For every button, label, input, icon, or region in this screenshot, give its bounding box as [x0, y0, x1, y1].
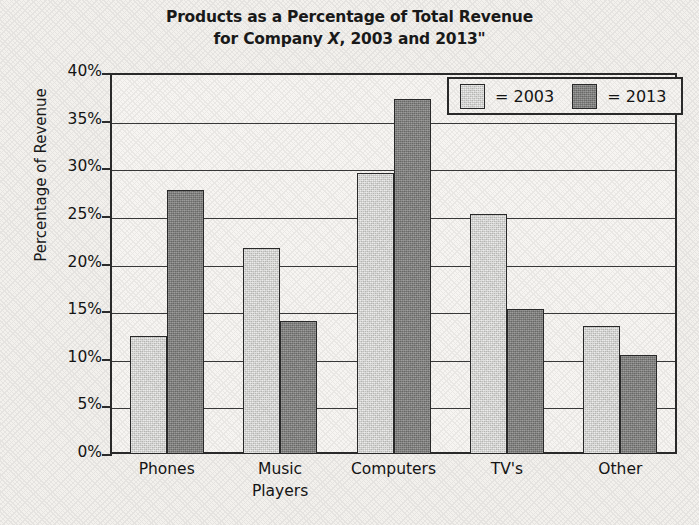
x-tick-label-text: Phones	[139, 460, 195, 478]
x-axis-tick-labels: PhonesMusicPlayersComputersTV'sOther	[110, 458, 677, 522]
plot-area	[110, 73, 677, 454]
y-tick-label-0%: 0%	[44, 443, 102, 461]
x-tick-label-computers: Computers	[337, 458, 450, 480]
y-tick-label-25%: 25%	[44, 205, 102, 223]
x-tick-label-text: TV's	[491, 460, 523, 478]
y-tick-label-40%: 40%	[44, 62, 102, 80]
y-tick-label-15%: 15%	[44, 300, 102, 318]
y-tick-mark-15%	[102, 311, 112, 313]
y-tick-mark-0%	[102, 454, 112, 456]
y-tick-mark-30%	[102, 168, 112, 170]
y-tick-mark-20%	[102, 264, 112, 266]
y-tick-label-5%: 5%	[44, 395, 102, 413]
y-tick-label-30%: 30%	[44, 157, 102, 175]
gridline-30%	[112, 170, 675, 171]
chart-title-line-2: for Company X, 2003 and 2013"	[0, 28, 699, 50]
chart-title-line-2-prefix: for Company	[214, 30, 328, 48]
gridline-20%	[112, 266, 675, 267]
gridline-15%	[112, 313, 675, 314]
y-tick-mark-35%	[102, 121, 112, 123]
gridline-5%	[112, 408, 675, 409]
x-tick-label-text: Computers	[351, 460, 436, 478]
legend-swatch-2013	[572, 84, 597, 109]
y-tick-mark-5%	[102, 406, 112, 408]
chart-title-line-1: Products as a Percentage of Total Revenu…	[0, 6, 699, 28]
legend-label-2013: = 2013	[607, 87, 666, 106]
legend-swatch-2003	[460, 84, 485, 109]
y-tick-mark-40%	[102, 73, 112, 75]
x-tick-label-text: Music	[258, 460, 302, 478]
y-axis-tick-labels: 0%5%10%15%20%25%30%35%40%	[36, 73, 102, 454]
gridline-25%	[112, 218, 675, 219]
x-tick-label-tv-s: TV's	[450, 458, 563, 480]
y-tick-mark-25%	[102, 216, 112, 218]
x-tick-label-text: Players	[223, 480, 336, 502]
y-tick-label-35%: 35%	[44, 110, 102, 128]
y-tick-label-10%: 10%	[44, 348, 102, 366]
x-tick-label-phones: Phones	[110, 458, 223, 480]
chart-legend: = 2003= 2013	[447, 77, 683, 115]
legend-entry-2013: = 2013	[572, 84, 666, 109]
gridline-35%	[112, 123, 675, 124]
legend-entry-2003: = 2003	[460, 84, 554, 109]
x-tick-label-other: Other	[564, 458, 677, 480]
gridline-10%	[112, 361, 675, 362]
y-tick-mark-10%	[102, 359, 112, 361]
chart-title: Products as a Percentage of Total Revenu…	[0, 6, 699, 50]
x-tick-label-text: Other	[598, 460, 642, 478]
y-tick-label-20%: 20%	[44, 253, 102, 271]
chart-title-company-variable: X	[328, 30, 340, 48]
x-tick-label-music-players: MusicPlayers	[223, 458, 336, 502]
chart-title-line-2-suffix: , 2003 and 2013"	[340, 30, 486, 48]
legend-label-2003: = 2003	[495, 87, 554, 106]
